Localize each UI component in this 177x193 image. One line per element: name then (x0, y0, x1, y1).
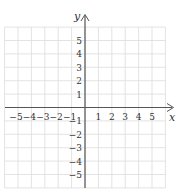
x-tick-label: 4 (136, 112, 142, 122)
x-tick-label: −5 (9, 112, 23, 122)
y-tick-label: 5 (76, 36, 82, 46)
x-tick-labels: −5−4−3−2−112345 (9, 112, 155, 122)
y-tick-label: −4 (69, 157, 83, 167)
x-tick-label: −4 (23, 112, 37, 122)
x-tick-label: 5 (149, 112, 155, 122)
x-axis-label: x (169, 111, 176, 124)
x-tick-label: −3 (36, 112, 50, 122)
y-tick-label: −5 (69, 170, 83, 180)
x-tick-label: 1 (96, 112, 102, 122)
coordinate-plane: x y −5−4−3−2−112345 54321−1−2−3−4−5 (0, 0, 177, 193)
x-tick-label: −2 (50, 112, 63, 122)
y-tick-label: 4 (76, 49, 82, 59)
y-tick-label: −2 (69, 130, 82, 140)
y-axis-label: y (73, 10, 81, 23)
y-tick-label: 3 (76, 63, 82, 73)
y-tick-label: −3 (69, 143, 83, 153)
y-tick-label: 2 (76, 76, 82, 86)
y-tick-label: −1 (69, 116, 82, 126)
y-tick-label: 1 (76, 90, 82, 100)
x-tick-label: 3 (122, 112, 128, 122)
x-tick-label: 2 (109, 112, 115, 122)
